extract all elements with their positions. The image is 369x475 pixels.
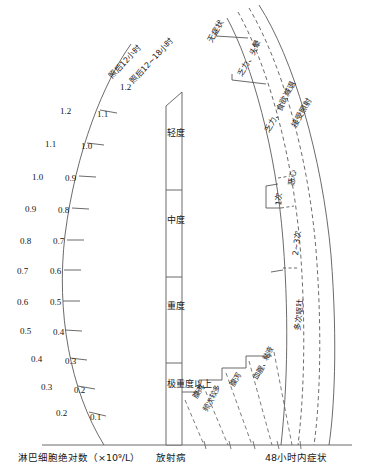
tick-value-right-8: 0.4 bbox=[53, 328, 64, 337]
tick-value-left-10: 0.3 bbox=[41, 383, 52, 392]
tick-value-left-4: 0.9 bbox=[25, 205, 36, 214]
tick-value-right-4: 0.8 bbox=[58, 206, 69, 215]
tick-value-left-11: 0.2 bbox=[56, 409, 67, 418]
nausea-div-3b bbox=[271, 270, 283, 272]
tick-value-right-1: 1.1 bbox=[97, 110, 108, 119]
tick-3 bbox=[79, 176, 96, 177]
nausea-label: 恶心 bbox=[288, 169, 298, 186]
tick-value-left-5: 0.8 bbox=[20, 237, 31, 246]
nausea-count-1: 1次 bbox=[275, 192, 284, 206]
severity-column bbox=[166, 92, 182, 445]
base-tick-5 bbox=[300, 441, 301, 449]
nomogram-figure: 照后12小时 照后12~18小时 1.2 1.2 1.1 1.1 1.0 1.0… bbox=[0, 0, 369, 475]
tick-8 bbox=[65, 330, 82, 331]
nausea-div-1b bbox=[266, 184, 278, 186]
tick-value-right-10: 0.2 bbox=[74, 386, 85, 395]
tick-value-right-9: 0.3 bbox=[65, 357, 76, 366]
tick-value-left-9: 0.4 bbox=[31, 355, 42, 364]
arc-2 bbox=[238, 12, 304, 445]
nausea-div-2 bbox=[281, 206, 294, 208]
tick-value-left-2: 1.1 bbox=[45, 140, 56, 149]
arc-leader-2 bbox=[232, 80, 266, 84]
tick-value-right-5: 0.7 bbox=[53, 237, 64, 246]
severity-band-mild: 轻度 bbox=[167, 127, 181, 140]
tick-value-left-3: 1.0 bbox=[32, 173, 43, 182]
arc-leader-1 bbox=[216, 36, 248, 38]
tick-4 bbox=[72, 208, 89, 209]
tick-value-left-7: 0.6 bbox=[17, 298, 28, 307]
right-axis-caption: 48小时内症状 bbox=[265, 453, 327, 463]
tick-value-right-3: 0.9 bbox=[65, 174, 76, 183]
tick-value-left-6: 0.7 bbox=[17, 267, 28, 276]
severity-band-moderate: 中度 bbox=[167, 214, 181, 227]
tick-value-left-8: 0.5 bbox=[20, 327, 31, 336]
tick-value-left-1: 1.2 bbox=[60, 107, 71, 116]
tick-value-right-11: 0.1 bbox=[90, 413, 101, 422]
center-axis-caption: 放射病 bbox=[156, 453, 186, 463]
tick-value-right-6: 0.6 bbox=[50, 267, 61, 276]
arc-4 bbox=[259, 5, 335, 445]
severity-band-extreme: 极重度以上 bbox=[167, 378, 181, 391]
tick-value-right-0: 1.2 bbox=[120, 83, 131, 92]
tick-value-right-2: 1.0 bbox=[81, 142, 92, 151]
tick-value-right-7: 0.5 bbox=[50, 298, 61, 307]
left-scale-curve bbox=[62, 44, 131, 445]
left-axis-caption: 淋巴细胞绝对数（×10⁹/L） bbox=[18, 453, 140, 463]
severity-band-severe: 重度 bbox=[167, 300, 181, 313]
fan-5 bbox=[274, 352, 292, 445]
